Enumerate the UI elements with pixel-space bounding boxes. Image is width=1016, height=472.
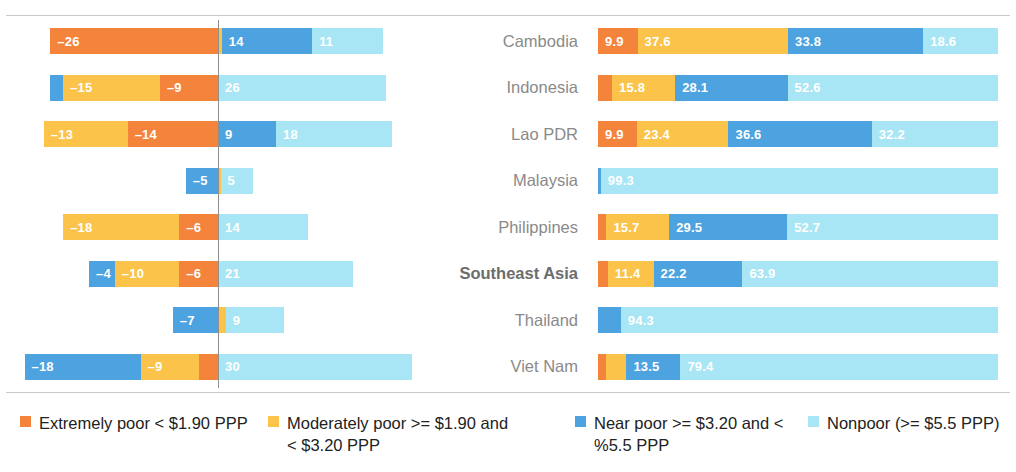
- bar-segment: [218, 307, 226, 333]
- country-label: Philippines: [420, 204, 592, 251]
- positive-bar: 9: [218, 307, 284, 333]
- bar-segment: –6: [179, 214, 218, 240]
- bar-segment: –9: [141, 354, 199, 380]
- bar-segment: –15: [63, 75, 160, 101]
- country-label: Southeast Asia: [420, 251, 592, 298]
- bar-segment: 18.6: [923, 28, 997, 54]
- chart-row: –18–614: [0, 204, 420, 251]
- bar-segment: 14: [222, 28, 312, 54]
- legend-swatch-icon: [575, 416, 586, 427]
- bar-value-label: –13: [44, 127, 73, 142]
- zero-axis-line: [218, 20, 219, 388]
- negative-bar: –15–9: [50, 75, 218, 101]
- bar-value-label: 15.7: [606, 220, 639, 235]
- bar-segment: –5: [186, 168, 218, 194]
- bar-segment: [199, 354, 218, 380]
- bar-segment: 29.5: [669, 214, 787, 240]
- chart-row: –18–930: [0, 344, 420, 391]
- stacked-bar: 13.579.4: [598, 354, 998, 380]
- bar-segment: –18: [63, 214, 179, 240]
- bar-segment: 30: [218, 354, 412, 380]
- bar-value-label: 9.9: [598, 127, 624, 142]
- chart-row: –79: [0, 297, 420, 344]
- positive-bar: 30: [218, 354, 412, 380]
- bar-value-label: 94.3: [621, 313, 654, 328]
- bar-value-label: 14: [222, 34, 244, 49]
- chart-row: 13.579.4: [598, 344, 1010, 391]
- bar-value-label: 32.2: [872, 127, 905, 142]
- bar-segment: 13.5: [626, 354, 680, 380]
- bottom-divider: [6, 392, 1010, 393]
- country-label: Viet Nam: [420, 344, 592, 391]
- chart-plot-area: –261411–15–926–13–14918–55–18–614–4–10–6…: [0, 18, 1016, 390]
- bar-value-label: 37.6: [638, 34, 671, 49]
- chart-row: –55: [0, 158, 420, 205]
- legend-swatch-icon: [808, 416, 819, 427]
- bar-segment: [598, 307, 621, 333]
- left-change-panel: –261411–15–926–13–14918–55–18–614–4–10–6…: [0, 18, 420, 390]
- bar-segment: –26: [50, 28, 218, 54]
- bar-value-label: 11: [312, 34, 333, 49]
- bar-value-label: 29.5: [669, 220, 702, 235]
- bar-segment: [598, 214, 606, 240]
- bar-value-label: 18: [276, 127, 298, 142]
- bar-value-label: 99.3: [601, 173, 634, 188]
- bar-value-label: 23.4: [637, 127, 670, 142]
- bar-value-label: 26: [218, 80, 240, 95]
- bar-value-label: 13.5: [626, 359, 659, 374]
- stacked-bar: 9.937.633.818.6: [598, 28, 998, 54]
- bar-value-label: 18.6: [923, 34, 956, 49]
- country-label: Malaysia: [420, 158, 592, 205]
- bar-segment: 9.9: [598, 28, 638, 54]
- chart-row: 9.923.436.632.2: [598, 111, 1010, 158]
- bar-segment: [598, 75, 612, 101]
- chart-row: –13–14918: [0, 111, 420, 158]
- positive-bar: 5: [218, 168, 253, 194]
- bar-value-label: 30: [218, 359, 240, 374]
- bar-segment: 22.2: [654, 261, 743, 287]
- legend-swatch-icon: [268, 416, 279, 427]
- negative-bar: –5: [186, 168, 218, 194]
- bar-value-label: 9: [218, 127, 232, 142]
- bar-value-label: –6: [179, 220, 201, 235]
- chart-row: 15.729.552.7: [598, 204, 1010, 251]
- bar-segment: –10: [115, 261, 180, 287]
- bar-segment: 14: [218, 214, 308, 240]
- bar-value-label: 79.4: [680, 359, 713, 374]
- bar-segment: 5: [221, 168, 253, 194]
- bar-value-label: –18: [63, 220, 92, 235]
- bar-segment: 21: [218, 261, 353, 287]
- bar-segment: 37.6: [638, 28, 788, 54]
- chart-row: 9.937.633.818.6: [598, 18, 1010, 65]
- bar-segment: –14: [128, 121, 218, 147]
- stacked-bar: 94.3: [598, 307, 998, 333]
- bar-segment: 32.2: [872, 121, 998, 147]
- bar-value-label: –9: [141, 359, 163, 374]
- bar-value-label: 21: [218, 266, 240, 281]
- bar-value-label: 9.9: [598, 34, 624, 49]
- chart-row: –4–10–621: [0, 251, 420, 298]
- positive-bar: 26: [218, 75, 386, 101]
- country-label: Thailand: [420, 297, 592, 344]
- bar-value-label: 15.8: [612, 80, 645, 95]
- left-bars-container: –261411–15–926–13–14918–55–18–614–4–10–6…: [0, 18, 420, 390]
- negative-bar: –26: [50, 28, 218, 54]
- bar-value-label: –5: [186, 173, 208, 188]
- bar-value-label: –9: [160, 80, 182, 95]
- bar-segment: [606, 354, 627, 380]
- chart-row: 94.3: [598, 297, 1010, 344]
- bar-value-label: 11.4: [608, 266, 640, 281]
- legend-label: Moderately poor >= $1.90 and < $3.20 PPP: [287, 412, 512, 456]
- bar-segment: –9: [160, 75, 218, 101]
- bar-segment: 15.8: [612, 75, 675, 101]
- bar-segment: 9: [226, 307, 284, 333]
- top-divider: [6, 15, 1010, 16]
- chart-row: –261411: [0, 18, 420, 65]
- bar-segment: 28.1: [675, 75, 787, 101]
- legend-item-near-poor: Near poor >= $3.20 and < %5.5 PPP: [575, 412, 819, 456]
- bar-segment: –13: [44, 121, 128, 147]
- positive-bar: 14: [218, 214, 308, 240]
- negative-bar: –4–10–6: [89, 261, 218, 287]
- bar-value-label: 5: [221, 173, 235, 188]
- bar-value-label: 9: [226, 313, 240, 328]
